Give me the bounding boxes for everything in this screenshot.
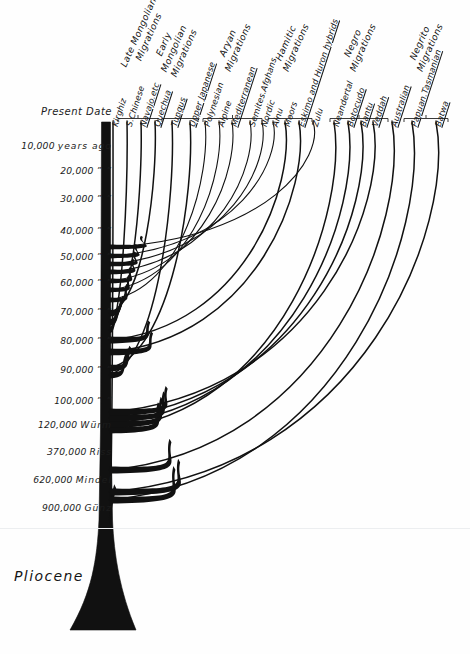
time-axis-row: 900,000Günz [8, 501, 112, 515]
time-axis-value: 40,000 [60, 225, 93, 236]
time-axis-row: 90,000” ” [8, 363, 112, 377]
time-axis-value: 50,000 [60, 251, 93, 262]
time-axis-value: 10,000 [21, 140, 54, 151]
epoch-divider [0, 528, 470, 529]
time-axis-row: 40,000” ” [8, 224, 112, 238]
time-axis-value: 80,000 [60, 335, 93, 346]
time-axis-unit: Günz [84, 502, 112, 513]
time-axis-value: 370,000 [47, 446, 86, 457]
time-axis-row: 100,000” ” [8, 394, 112, 408]
epoch-label: Pliocene [14, 568, 84, 584]
phylogenetic-tree-figure: Pliocene Present Date10,000years ago20,0… [0, 0, 470, 654]
time-axis-row: 370,000Riss [8, 445, 112, 459]
time-axis-row: 20,000” ” [8, 164, 112, 178]
time-axis-unit: ” ” [97, 165, 112, 176]
time-axis-value: Present Date [41, 106, 112, 117]
time-axis-row: 120,000Würm [8, 418, 112, 432]
time-axis-value: 60,000 [60, 277, 93, 288]
time-axis-row: 620,000Mindel [8, 473, 112, 487]
time-axis-unit: Würm [80, 419, 112, 430]
time-axis-value: 20,000 [60, 165, 93, 176]
time-axis-unit: ” ” [97, 277, 112, 288]
time-axis-row: Present Date [8, 105, 112, 119]
time-axis-row: 50,000” ” [8, 250, 112, 264]
time-axis-unit: ” ” [97, 335, 112, 346]
time-axis-unit: Riss [89, 446, 112, 457]
time-axis-row: 30,000” ” [8, 192, 112, 206]
time-axis-unit: ” ” [97, 193, 112, 204]
time-axis-value: 70,000 [60, 306, 93, 317]
time-axis-value: 900,000 [42, 502, 81, 513]
time-axis-value: 120,000 [38, 419, 77, 430]
time-axis-unit: ” ” [97, 251, 112, 262]
time-axis-unit: ” ” [97, 306, 112, 317]
time-axis-row: 70,000” ” [8, 305, 112, 319]
time-axis-unit: ” ” [97, 225, 112, 236]
time-axis-value: 100,000 [54, 395, 93, 406]
time-axis-unit: Mindel [76, 474, 112, 485]
time-axis-value: 620,000 [33, 474, 72, 485]
time-axis-row: 80,000” ” [8, 334, 112, 348]
time-axis-row: 10,000years ago [8, 139, 112, 153]
time-axis-unit: ” ” [97, 395, 112, 406]
time-axis-row: 60,000” ” [8, 276, 112, 290]
time-axis-unit: ” ” [97, 364, 112, 375]
time-axis-value: 30,000 [60, 193, 93, 204]
time-axis-value: 90,000 [60, 364, 93, 375]
time-axis-unit: years ago [58, 140, 112, 151]
